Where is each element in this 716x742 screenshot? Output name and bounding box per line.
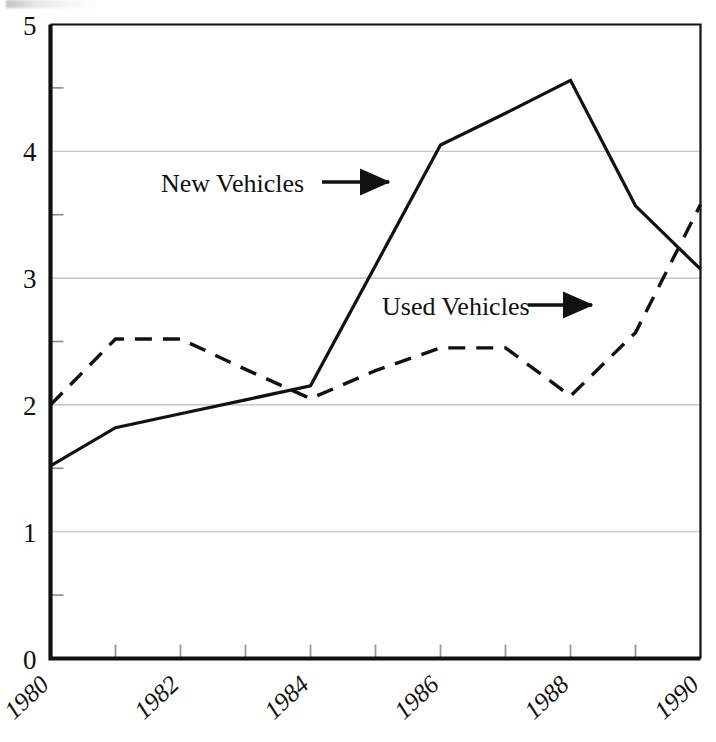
y-axis-tick-labels: 012345 bbox=[23, 11, 37, 675]
x-tick-label-1984: 1984 bbox=[259, 670, 314, 724]
y-tick-label-2: 2 bbox=[23, 391, 37, 421]
data-series bbox=[51, 80, 701, 465]
series-annotations: New Vehicles Used Vehicles bbox=[161, 169, 592, 321]
x-tick-label-1980: 1980 bbox=[0, 670, 54, 724]
used-vehicles-annotation-label: Used Vehicles bbox=[382, 292, 530, 321]
new-vehicles-annotation-label: New Vehicles bbox=[161, 169, 304, 198]
x-tick-label-1982: 1982 bbox=[129, 670, 184, 724]
grid-lines bbox=[51, 151, 701, 531]
chart-canvas: 012345 198019821984198619881990 New Vehi… bbox=[0, 0, 716, 742]
y-tick-label-3: 3 bbox=[23, 264, 37, 294]
axis-spines-thin bbox=[51, 25, 701, 659]
x-axis-tick-labels: 198019821984198619881990 bbox=[0, 670, 704, 724]
x-tick-label-1990: 1990 bbox=[649, 670, 704, 724]
y-tick-label-1: 1 bbox=[23, 518, 37, 548]
x-tick-label-1988: 1988 bbox=[519, 670, 574, 724]
series-line-new-vehicles bbox=[51, 80, 701, 465]
plot-frame bbox=[51, 25, 701, 659]
y-tick-label-4: 4 bbox=[23, 137, 37, 167]
chart-figure: 012345 198019821984198619881990 New Vehi… bbox=[0, 0, 716, 742]
series-line-used-vehicles bbox=[51, 205, 701, 405]
axis-spines-heavy bbox=[51, 25, 701, 659]
y-tick-label-5: 5 bbox=[23, 11, 37, 41]
x-tick-label-1986: 1986 bbox=[389, 670, 444, 724]
y-tick-label-0: 0 bbox=[23, 645, 37, 675]
